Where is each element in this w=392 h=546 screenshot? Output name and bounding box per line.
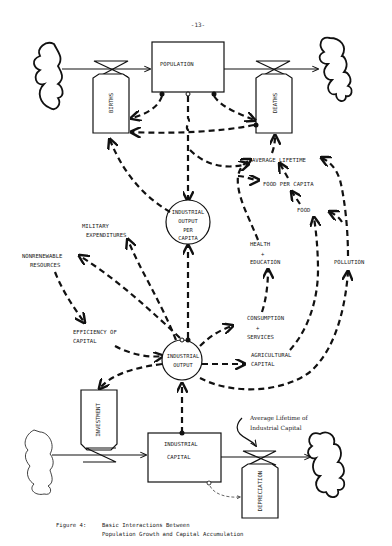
source-cloud-icon <box>34 43 63 109</box>
svg-text:OUTPUT: OUTPUT <box>178 218 198 224</box>
figure-caption-line2: Population Growth and Capital Accumulati… <box>102 531 243 538</box>
svg-text:OUTPUT: OUTPUT <box>173 362 193 368</box>
average-lifetime-label: AVERAGE LIFETIME <box>252 157 307 163</box>
svg-text:Industrial Capital: Industrial Capital <box>250 425 302 432</box>
svg-text:CAPITAL: CAPITAL <box>167 454 191 460</box>
svg-text:CAPITA: CAPITA <box>178 235 198 241</box>
svg-text:CAPITAL: CAPITAL <box>73 338 97 344</box>
svg-text:+: + <box>256 325 260 331</box>
deaths-label: DEATHS <box>272 93 278 113</box>
industrial-capital-label: INDUSTRIAL <box>164 441 198 447</box>
figure-label: Figure 4: <box>56 522 86 529</box>
efficiency-of-capital-label: EFFICIENCY OF <box>73 329 117 335</box>
svg-text:EXPENDITURES: EXPENDITURES <box>86 232 126 238</box>
svg-text:SERVICES: SERVICES <box>247 334 274 340</box>
system-dynamics-diagram: -13- POPULATION BIRTHS DEATHS INDUSTRIAL… <box>0 0 392 546</box>
svg-text:PER: PER <box>183 227 193 233</box>
sink-cloud-icon <box>308 432 344 497</box>
svg-text:CAPITAL: CAPITAL <box>251 361 275 367</box>
consumption-services-label: CONSUMPTION <box>247 315 284 321</box>
population-label: POPULATION <box>160 61 194 67</box>
population-stock <box>152 42 224 92</box>
figure-caption-line1: Basic Interactions Between <box>102 522 190 528</box>
sink-cloud-icon <box>320 38 352 101</box>
svg-text:+: + <box>261 251 265 257</box>
svg-text:RESOURCES: RESOURCES <box>30 262 60 268</box>
investment-label: INVESTMENT <box>95 403 101 437</box>
industrial-output-node <box>162 340 202 380</box>
food-per-capita-label: FOOD PER CAPITA <box>263 181 314 187</box>
source-cloud-icon <box>25 430 53 494</box>
depreciation-label: DEPRECIATION <box>257 471 263 511</box>
depreciation-valve-icon <box>243 451 276 465</box>
nonrenewable-resources-label: NONRENEWABLE <box>22 253 63 259</box>
average-lifetime-industrial-capital-label: Average Lifetime of <box>249 415 309 422</box>
svg-text:INDUSTRIAL: INDUSTRIAL <box>172 209 204 215</box>
food-label: FOOD <box>297 207 311 213</box>
svg-text:INDUSTRIAL: INDUSTRIAL <box>167 353 199 359</box>
svg-text:HEALTH: HEALTH <box>250 241 270 247</box>
births-label: BIRTHS <box>108 93 114 113</box>
pollution-label: POLLUTION <box>334 259 364 265</box>
agricultural-capital-label: AGRICULTURAL <box>251 352 292 358</box>
military-expenditures-label: MILITARY <box>82 223 110 229</box>
health-education-label: EDUCATION <box>250 259 280 265</box>
page-number: -13- <box>191 21 205 28</box>
